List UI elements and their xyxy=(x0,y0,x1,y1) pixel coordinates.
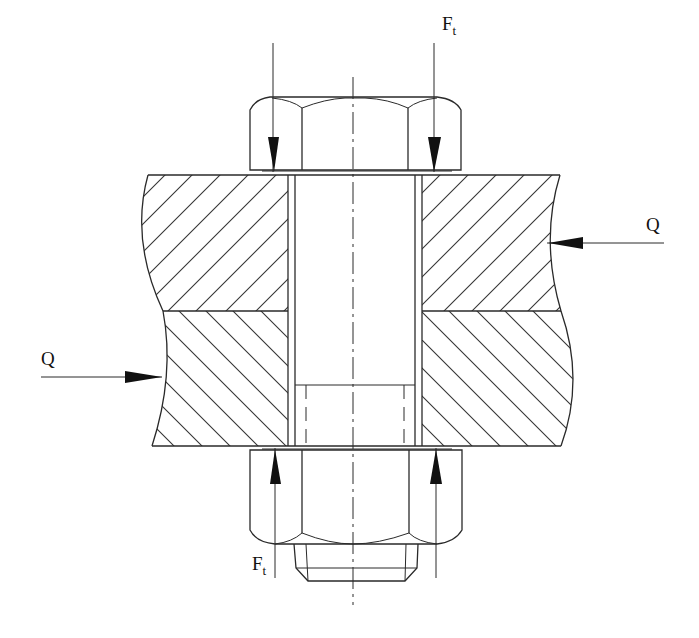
force-q-right xyxy=(547,237,664,249)
label-ft-bottom: Ft xyxy=(252,553,267,578)
bolt-shank xyxy=(262,171,452,449)
force-ft-bottom-left xyxy=(270,448,281,578)
bolted-joint-diagram: Ft Ft Q Q xyxy=(0,0,699,638)
hatch-lower-left xyxy=(130,278,320,468)
force-ft-top-left xyxy=(268,43,279,172)
force-ft-top-right xyxy=(428,43,441,172)
upper-plate-right xyxy=(400,155,600,322)
hatch-upper-right xyxy=(400,155,600,322)
force-q-left xyxy=(41,371,162,383)
hatch-upper-left xyxy=(100,131,340,316)
label-ft-top: Ft xyxy=(442,13,457,38)
upper-plate xyxy=(100,131,600,322)
upper-plate-left xyxy=(100,131,340,316)
bolt-head xyxy=(250,97,461,170)
lower-plate-right xyxy=(410,300,600,482)
force-ft-bottom-right xyxy=(430,448,442,578)
hatch-lower-right xyxy=(410,300,600,482)
label-q-left: Q xyxy=(41,348,55,369)
lower-plate xyxy=(130,278,600,482)
lower-plate-left xyxy=(130,278,320,468)
nut xyxy=(250,450,462,581)
label-q-right: Q xyxy=(646,214,660,235)
